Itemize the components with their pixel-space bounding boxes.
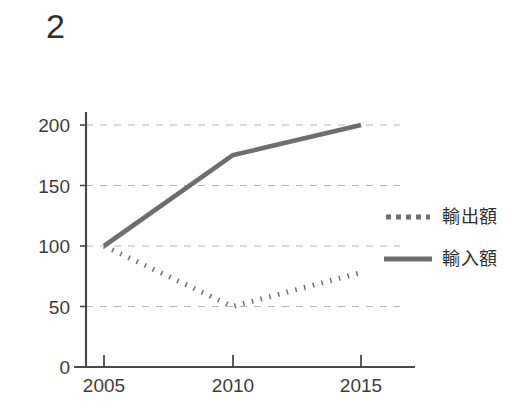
x-tick-label-2015: 2015 [340, 375, 382, 396]
dotted-line-sample-icon [384, 211, 432, 223]
series-export-line [104, 246, 361, 307]
legend-entry-export: 輸出額 [384, 196, 514, 238]
y-tick-label-150: 150 [38, 176, 70, 197]
x-tick-label-2010: 2010 [212, 375, 254, 396]
y-tick-label-50: 50 [49, 297, 70, 318]
chart-legend: 輸出額 輸入額 [384, 196, 514, 280]
solid-line-sample-icon [384, 253, 432, 265]
y-tick-label-200: 200 [38, 115, 70, 136]
x-tick-label-2005: 2005 [83, 375, 125, 396]
x-tick-marks [104, 355, 361, 367]
figure-container: 2 200 150 100 50 [0, 0, 518, 417]
legend-entry-import: 輸入額 [384, 238, 514, 280]
legend-label-import: 輸入額 [442, 249, 498, 269]
y-tick-label-0: 0 [59, 357, 70, 378]
y-tick-label-100: 100 [38, 236, 70, 257]
legend-label-export: 輸出額 [442, 207, 498, 227]
